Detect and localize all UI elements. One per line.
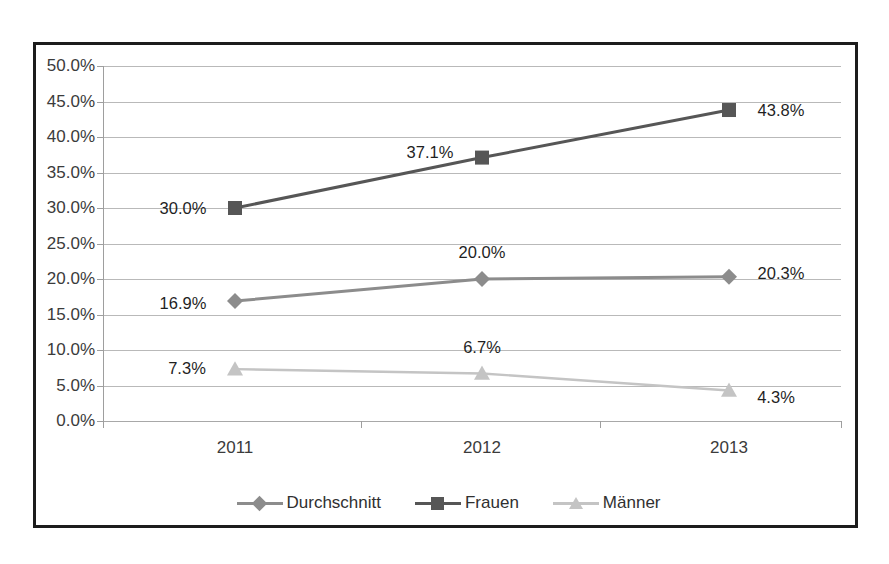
legend-item-durchschnitt[interactable]: Durchschnitt <box>237 493 381 513</box>
x-axis-label: 2013 <box>669 438 789 458</box>
y-axis-label: 0.0% <box>25 411 95 431</box>
data-point-label: 20.0% <box>459 243 506 262</box>
y-axis-label: 15.0% <box>25 305 95 325</box>
y-axis-label: 25.0% <box>25 234 95 254</box>
data-point-label: 16.9% <box>160 294 207 313</box>
y-axis-label: 10.0% <box>25 340 95 360</box>
series-marker <box>228 201 242 215</box>
chart-title <box>0 0 889 3</box>
x-axis-tick <box>361 421 362 428</box>
y-axis-label: 40.0% <box>25 127 95 147</box>
y-axis-label: 5.0% <box>25 376 95 396</box>
legend-item-maenner[interactable]: Männer <box>553 493 661 513</box>
data-point-label: 30.0% <box>160 199 207 218</box>
data-point-label: 20.3% <box>758 263 805 282</box>
legend-marker-square-icon <box>415 495 461 511</box>
series-marker <box>475 151 489 165</box>
x-axis-label: 2012 <box>422 438 542 458</box>
y-axis-label: 50.0% <box>25 56 95 76</box>
legend-marker-triangle-icon <box>553 495 599 511</box>
data-point-label: 4.3% <box>757 388 795 407</box>
y-axis-label: 35.0% <box>25 163 95 183</box>
series-marker <box>227 293 243 309</box>
x-axis-tick <box>841 421 842 428</box>
data-point-label: 6.7% <box>463 338 501 357</box>
plot-area: 50.0%45.0%40.0%35.0%30.0%25.0%20.0%15.0%… <box>103 66 841 421</box>
y-axis-label: 45.0% <box>25 92 95 112</box>
series-marker <box>722 103 736 117</box>
series-marker <box>721 269 737 285</box>
series-marker <box>474 271 490 287</box>
chart-frame: 50.0%45.0%40.0%35.0%30.0%25.0%20.0%15.0%… <box>33 42 858 528</box>
data-point-label: 37.1% <box>407 142 454 161</box>
chart-legend: Durchschnitt Frauen Männer <box>36 493 861 513</box>
x-axis-label: 2011 <box>175 438 295 458</box>
legend-label: Männer <box>603 493 661 513</box>
x-axis-tick <box>600 421 601 428</box>
legend-label: Durchschnitt <box>287 493 381 513</box>
gridline <box>103 421 841 422</box>
data-point-label: 7.3% <box>168 359 206 378</box>
legend-marker-diamond-icon <box>237 495 283 511</box>
x-axis-tick <box>103 421 104 428</box>
legend-item-frauen[interactable]: Frauen <box>415 493 519 513</box>
legend-label: Frauen <box>465 493 519 513</box>
data-point-label: 43.8% <box>758 101 805 120</box>
y-axis-label: 20.0% <box>25 269 95 289</box>
y-axis-label: 30.0% <box>25 198 95 218</box>
